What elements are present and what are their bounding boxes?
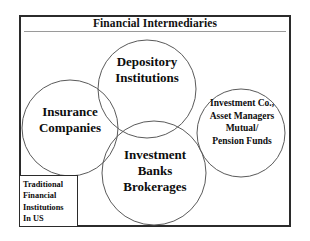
label-asset-managers-line-3: Mutual/: [192, 122, 292, 135]
callout-traditional-institutions: Traditional Financial Institutions In US: [19, 175, 78, 227]
label-insurance-line-2: Companies: [18, 120, 122, 136]
callout-line-2: Financial: [23, 190, 77, 201]
label-asset-managers-line-1: Investment Co.,: [192, 97, 292, 110]
label-asset-managers-line-2: Asset Managers: [192, 110, 292, 123]
label-investment-banks: Investment Banks Brokerages: [100, 147, 210, 195]
label-depository-line-1: Depository: [95, 54, 199, 70]
label-asset-managers: Investment Co., Asset Managers Mutual/ P…: [192, 97, 292, 147]
callout-line-1: Traditional: [23, 179, 77, 190]
callout-line-3: Institutions: [23, 202, 77, 213]
label-insurance: Insurance Companies: [18, 104, 122, 136]
label-insurance-line-1: Insurance: [18, 104, 122, 120]
callout-line-4: In US: [23, 213, 77, 224]
label-investment-banks-line-3: Brokerages: [100, 179, 210, 195]
label-investment-banks-line-2: Banks: [100, 163, 210, 179]
label-investment-banks-line-1: Investment: [100, 147, 210, 163]
venn-diagram-figure: Financial Intermediaries Depository Inst…: [0, 0, 310, 241]
label-depository: Depository Institutions: [95, 54, 199, 86]
label-asset-managers-line-4: Pension Funds: [192, 135, 292, 148]
label-depository-line-2: Institutions: [95, 70, 199, 86]
